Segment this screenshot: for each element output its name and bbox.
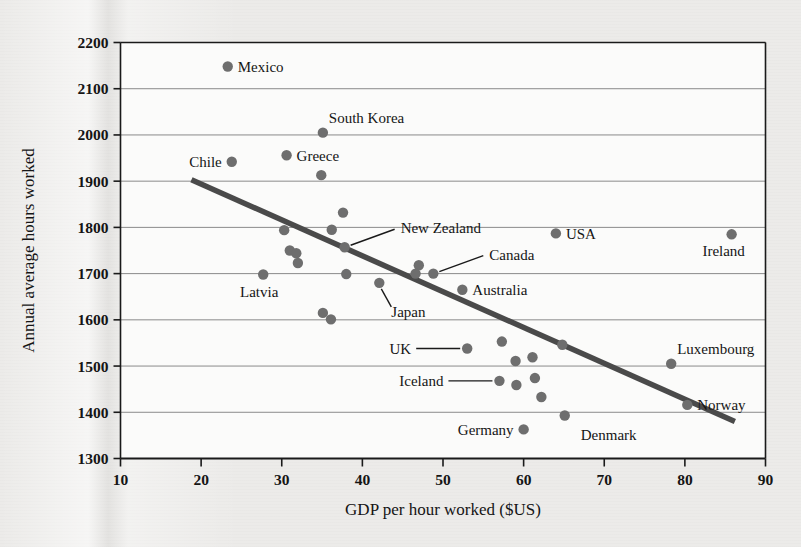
y-tick-label-1900: 1900 — [78, 173, 109, 190]
point-label-chile: Chile — [189, 154, 222, 170]
plot-background — [121, 43, 766, 459]
y-tick-label-1400: 1400 — [78, 404, 109, 421]
data-point-10[interactable] — [291, 248, 301, 258]
point-label-luxembourg: Luxembourg — [677, 341, 755, 357]
x-tick-label-50: 50 — [435, 471, 451, 488]
data-point-australia[interactable] — [457, 285, 467, 295]
data-point-chile[interactable] — [227, 157, 237, 167]
point-label-canada: Canada — [489, 247, 534, 263]
data-point-japan[interactable] — [374, 278, 384, 288]
data-point-13[interactable] — [341, 269, 351, 279]
point-label-latvia: Latvia — [240, 284, 279, 300]
data-point-denmark[interactable] — [560, 410, 570, 420]
chart-canvas: 1300140015001600170018001900200021002200… — [0, 0, 801, 547]
data-point-usa[interactable] — [551, 228, 561, 238]
x-tick-label-30: 30 — [274, 471, 290, 488]
y-tick-label-2000: 2000 — [78, 126, 109, 143]
data-point-11[interactable] — [293, 258, 303, 268]
data-point-norway[interactable] — [682, 400, 692, 410]
x-tick-label-60: 60 — [516, 471, 532, 488]
scatter-chart-figure: 1300140015001600170018001900200021002200… — [0, 0, 801, 547]
data-point-uk[interactable] — [462, 343, 472, 353]
x-tick-label-20: 20 — [193, 471, 209, 488]
data-point-canada[interactable] — [428, 268, 438, 278]
x-axis: 102030405060708090 — [113, 459, 774, 488]
y-tick-label-1300: 1300 — [78, 450, 109, 467]
data-point-4[interactable] — [316, 170, 326, 180]
data-point-27[interactable] — [557, 340, 567, 350]
y-axis-title: Annual average hours worked — [19, 148, 38, 353]
point-label-greece: Greece — [297, 148, 340, 164]
point-label-south-korea: South Korea — [329, 110, 405, 126]
data-point-new-zealand[interactable] — [339, 242, 349, 252]
x-tick-label-70: 70 — [597, 471, 613, 488]
data-point-6[interactable] — [279, 225, 289, 235]
x-tick-label-10: 10 — [113, 471, 129, 488]
y-axis: 1300140015001600170018001900200021002200 — [78, 34, 121, 467]
y-tick-label-1700: 1700 — [78, 265, 109, 282]
x-axis-title: GDP per hour worked ($US) — [345, 500, 541, 519]
point-label-australia: Australia — [472, 282, 527, 298]
y-tick-label-1800: 1800 — [78, 219, 109, 236]
point-label-mexico: Mexico — [238, 59, 284, 75]
point-label-japan: Japan — [391, 304, 426, 320]
point-label-uk: UK — [390, 341, 412, 357]
data-point-latvia[interactable] — [258, 269, 268, 279]
data-point-25[interactable] — [510, 356, 520, 366]
x-tick-label-40: 40 — [355, 471, 371, 488]
y-tick-label-1500: 1500 — [78, 358, 109, 375]
y-tick-label-2200: 2200 — [78, 34, 109, 51]
data-point-26[interactable] — [527, 352, 537, 362]
data-point-south-korea[interactable] — [318, 127, 328, 137]
data-point-luxembourg[interactable] — [666, 359, 676, 369]
point-label-ireland: Ireland — [702, 243, 745, 259]
data-point-7[interactable] — [327, 225, 337, 235]
data-point-mexico[interactable] — [223, 61, 233, 71]
data-point-iceland[interactable] — [494, 376, 504, 386]
x-tick-label-90: 90 — [758, 471, 774, 488]
point-label-new-zealand: New Zealand — [401, 220, 482, 236]
data-point-germany[interactable] — [518, 424, 528, 434]
data-point-30[interactable] — [511, 380, 521, 390]
point-label-iceland: Iceland — [399, 373, 444, 389]
data-point-19[interactable] — [318, 308, 328, 318]
data-point-15[interactable] — [410, 268, 420, 278]
y-tick-label-2100: 2100 — [78, 80, 109, 97]
y-tick-label-1600: 1600 — [78, 311, 109, 328]
data-point-5[interactable] — [338, 207, 348, 217]
point-label-denmark: Denmark — [581, 427, 637, 443]
data-point-20[interactable] — [326, 314, 336, 324]
data-point-23[interactable] — [497, 336, 507, 346]
data-point-greece[interactable] — [281, 150, 291, 160]
point-label-usa: USA — [566, 226, 596, 242]
data-point-32[interactable] — [536, 392, 546, 402]
x-tick-label-80: 80 — [677, 471, 693, 488]
data-point-ireland[interactable] — [726, 229, 736, 239]
point-label-germany: Germany — [458, 422, 514, 438]
point-label-norway: Norway — [697, 397, 746, 413]
data-point-31[interactable] — [530, 373, 540, 383]
